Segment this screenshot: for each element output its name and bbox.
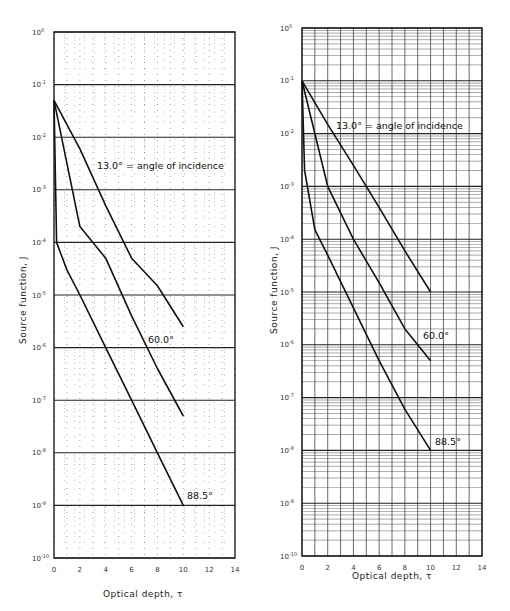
- left-x-axis-label: Optical depth, τ: [103, 589, 183, 599]
- right-x-tick-label: 2: [325, 564, 329, 572]
- left-x-tick-label: 4: [103, 566, 108, 574]
- left-y-tick-label: 10-3: [32, 184, 46, 194]
- right-y-axis-label: Source function, J: [269, 246, 279, 334]
- left-annotation-88deg: 88.5°: [187, 490, 213, 501]
- left-x-tick-label: 6: [129, 566, 134, 574]
- right-y-tick-label: 100: [280, 23, 292, 33]
- left-y-tick-label: 10-1: [32, 79, 46, 89]
- left-annotation-60deg: 60.0°: [148, 334, 174, 345]
- right-x-axis-label: Optical depth, τ: [352, 571, 432, 581]
- left-y-tick-label: 10-5: [32, 290, 46, 300]
- right-annotation-88deg: 88.5°: [435, 436, 461, 447]
- left-y-tick-label: 10-7: [32, 395, 46, 405]
- left-x-tick-label: 2: [78, 566, 82, 574]
- right-x-tick-label: 14: [478, 564, 487, 572]
- right-y-tick-label: 10-9: [280, 498, 294, 508]
- left-x-tick-label: 8: [155, 566, 159, 574]
- right-grid: [302, 28, 482, 556]
- right-y-tick-label: 10-2: [280, 128, 294, 138]
- left-y-tick-label: 10-8: [32, 447, 46, 457]
- right-annotation-13deg: 13.0° = angle of incidence: [336, 120, 463, 131]
- right-x-tick-label: 0: [300, 564, 304, 572]
- left-annotation-13deg: 13.0° = angle of incidence: [97, 160, 224, 171]
- chart-figure: 10010-110-210-310-410-510-610-710-810-91…: [0, 0, 510, 611]
- left-grid: [54, 32, 235, 558]
- right-chart-panel: 10010-110-210-310-410-510-610-710-810-91…: [280, 23, 487, 573]
- right-y-tick-label: 10-5: [280, 287, 294, 297]
- left-y-tick-label: 10-4: [32, 237, 46, 247]
- left-y-tick-label: 100: [32, 27, 44, 37]
- right-x-tick-label: 12: [452, 564, 461, 572]
- left-y-axis-label: Source function, J: [18, 256, 28, 344]
- left-y-tick-label: 10-9: [32, 500, 46, 510]
- right-y-tick-label: 10-4: [280, 234, 294, 244]
- left-y-tick-label: 10-2: [32, 132, 46, 142]
- right-y-tick-label: 10-1: [280, 75, 294, 85]
- left-y-tick-label: 10-6: [32, 342, 46, 352]
- right-y-tick-label: 10-7: [280, 392, 294, 402]
- left-x-tick-label: 0: [52, 566, 56, 574]
- left-y-tick-label: 10-10: [32, 553, 49, 563]
- left-x-tick-label: 14: [231, 566, 240, 574]
- right-y-tick-label: 10-8: [280, 445, 294, 455]
- right-y-tick-label: 10-10: [280, 551, 297, 561]
- right-annotation-60deg: 60.0°: [423, 330, 449, 341]
- left-x-tick-label: 12: [205, 566, 214, 574]
- right-y-tick-label: 10-3: [280, 181, 294, 191]
- right-y-tick-label: 10-6: [280, 339, 294, 349]
- left-x-tick-label: 10: [179, 566, 188, 574]
